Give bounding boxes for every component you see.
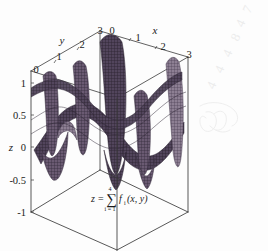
equation-function-f: f [119, 193, 123, 204]
summation-lower-limit: i = 1 [104, 206, 115, 212]
x-tick-label-1: 1 [135, 32, 140, 43]
surface-plot-figure: 0 1 2 3 x 0 1 2 3 y 1 0.5 0 -0.5 -1 z z … [0, 0, 268, 251]
margin-digit-4: 4 [211, 63, 228, 76]
x-axis-label: x [152, 24, 158, 36]
margin-digit-1: 4 [232, 17, 249, 30]
equation-caption: z = ∑ 4 i = 1 f i (x, y) [90, 186, 148, 212]
equation-lhs: z [90, 193, 95, 204]
margin-digit-3: 4 [219, 47, 236, 60]
margin-annotations: 7 4 8 4 4 4 [200, 3, 256, 132]
x-tick-label-0: 0 [109, 25, 114, 36]
z-tick-label-0-5: 0.5 [13, 110, 26, 121]
z-tick-label-neg-0-5: -0.5 [9, 175, 26, 186]
margin-digit-5: 4 [203, 79, 220, 92]
margin-digit-2: 8 [227, 31, 243, 43]
equation-function-subscript: i [124, 200, 126, 206]
summation-upper-limit: 4 [109, 186, 112, 192]
figure-container: 0 1 2 3 x 0 1 2 3 y 1 0.5 0 -0.5 -1 z z … [0, 0, 268, 251]
y-tick-label-1: 1 [56, 51, 61, 62]
y-tick-label-3: 3 [97, 25, 102, 36]
z-axis-label: z [8, 141, 14, 153]
margin-digit-0: 7 [239, 3, 256, 16]
z-tick-label-0: 0 [21, 142, 26, 153]
z-tick-label-1: 1 [21, 78, 26, 89]
equation-equals: = [98, 193, 104, 204]
equation-function-args: (x, y) [127, 193, 148, 205]
y-tick-label-0: 0 [33, 64, 38, 75]
x-tick-label-2: 2 [160, 41, 165, 52]
y-axis-label: y [59, 34, 65, 46]
x-tick-label-3: 3 [186, 49, 191, 60]
y-tick-label-2: 2 [79, 39, 84, 50]
z-tick-label-neg-1: -1 [17, 207, 26, 218]
surface-peak-3 [100, 35, 126, 176]
signature-scribble [200, 103, 238, 133]
